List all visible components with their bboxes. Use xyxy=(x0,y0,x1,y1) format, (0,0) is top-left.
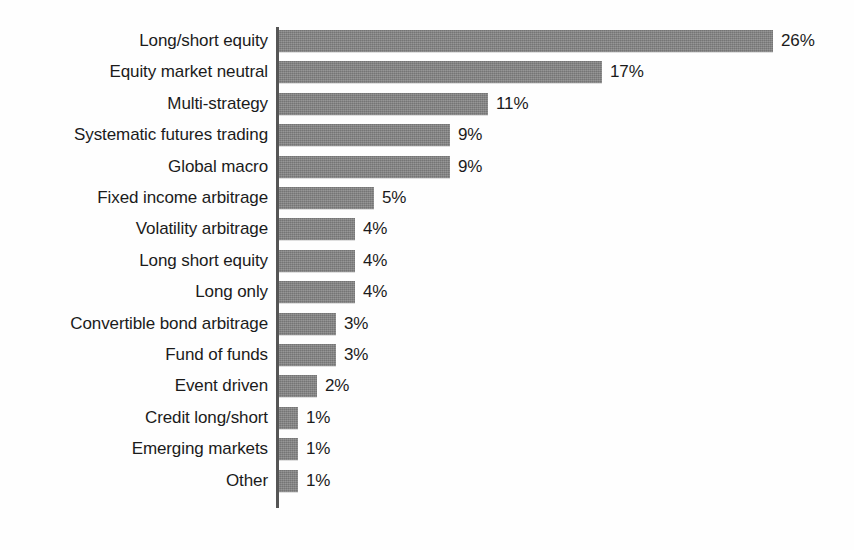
bar xyxy=(279,438,298,460)
bar xyxy=(279,470,298,492)
bar xyxy=(279,61,602,83)
bar xyxy=(279,156,450,178)
category-label: Equity market neutral xyxy=(0,61,268,83)
bar-row: Other1% xyxy=(0,470,854,501)
value-label: 1% xyxy=(306,470,330,492)
bar xyxy=(279,124,450,146)
category-label: Fixed income arbitrage xyxy=(0,187,268,209)
category-label: Global macro xyxy=(0,156,268,178)
bar xyxy=(279,187,374,209)
plot-area: Long/short equity26%Equity market neutra… xyxy=(0,0,854,550)
bar-row: Fund of funds3% xyxy=(0,344,854,375)
category-label: Fund of funds xyxy=(0,344,268,366)
bar xyxy=(279,407,298,429)
bar-row: Systematic futures trading9% xyxy=(0,124,854,155)
value-label: 4% xyxy=(363,281,387,303)
bar-row: Long/short equity26% xyxy=(0,30,854,61)
bar-chart: Long/short equity26%Equity market neutra… xyxy=(0,0,854,550)
bar-row: Convertible bond arbitrage3% xyxy=(0,313,854,344)
value-label: 17% xyxy=(610,61,644,83)
category-label: Emerging markets xyxy=(0,438,268,460)
bar-row: Emerging markets1% xyxy=(0,438,854,469)
value-label: 4% xyxy=(363,218,387,240)
bar-row: Equity market neutral17% xyxy=(0,61,854,92)
category-label: Other xyxy=(0,470,268,492)
bar xyxy=(279,313,336,335)
bar xyxy=(279,250,355,272)
bar xyxy=(279,218,355,240)
category-label: Event driven xyxy=(0,375,268,397)
bar xyxy=(279,30,773,52)
value-label: 3% xyxy=(344,313,368,335)
bar-row: Volatility arbitrage4% xyxy=(0,218,854,249)
bar-row: Event driven2% xyxy=(0,375,854,406)
bar xyxy=(279,281,355,303)
category-label: Long/short equity xyxy=(0,30,268,52)
bar xyxy=(279,375,317,397)
category-label: Multi-strategy xyxy=(0,93,268,115)
category-label: Volatility arbitrage xyxy=(0,218,268,240)
category-label: Credit long/short xyxy=(0,407,268,429)
value-label: 2% xyxy=(325,375,349,397)
value-label: 3% xyxy=(344,344,368,366)
category-label: Systematic futures trading xyxy=(0,124,268,146)
value-label: 5% xyxy=(382,187,406,209)
bar-row: Long only4% xyxy=(0,281,854,312)
value-label: 1% xyxy=(306,407,330,429)
value-label: 26% xyxy=(781,30,815,52)
value-label: 1% xyxy=(306,438,330,460)
bar-row: Multi-strategy11% xyxy=(0,93,854,124)
bar xyxy=(279,93,488,115)
value-label: 11% xyxy=(496,93,528,115)
value-label: 9% xyxy=(458,124,482,146)
bar-row: Global macro9% xyxy=(0,156,854,187)
bar-row: Long short equity4% xyxy=(0,250,854,281)
value-label: 4% xyxy=(363,250,387,272)
value-label: 9% xyxy=(458,156,482,178)
category-label: Long only xyxy=(0,281,268,303)
bar xyxy=(279,344,336,366)
category-label: Long short equity xyxy=(0,250,268,272)
bar-row: Fixed income arbitrage5% xyxy=(0,187,854,218)
category-label: Convertible bond arbitrage xyxy=(0,313,268,335)
bar-row: Credit long/short1% xyxy=(0,407,854,438)
